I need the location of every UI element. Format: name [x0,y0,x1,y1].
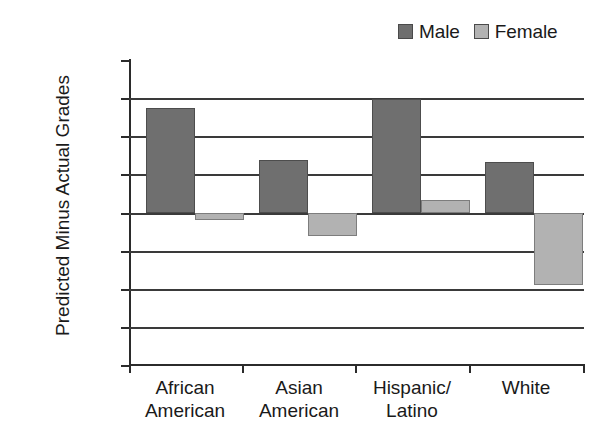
legend-swatch-female [474,24,489,39]
bar-female-asian-american [308,213,357,236]
bar-male-asian-american [259,160,308,213]
gridline-0.15 [129,98,584,100]
plot-area [129,60,584,365]
x-tick-4 [583,364,585,373]
gridline--0.10 [129,289,584,291]
x-category-line1-white: White [502,377,551,398]
legend-label-female: Female [495,22,558,41]
gridline--0.05 [129,251,584,253]
bar-chart-figure: Male Female Predicted Minus Actual Grade… [0,0,599,445]
x-tick-0 [129,364,131,373]
y-tick-mark-0 [121,60,130,62]
x-tick-3 [469,364,471,373]
x-tick-1 [242,364,244,373]
chart-legend: Male Female [398,20,558,42]
bar-male-white [485,162,534,213]
legend-swatch-male [398,24,413,39]
x-tick-2 [355,364,357,373]
bar-female-african-american [195,213,244,220]
x-category-line1-asian-american: Asian [275,377,323,398]
bar-female-white [534,213,583,285]
gridline--0.15 [129,327,584,329]
legend-entry-female: Female [474,22,558,41]
x-category-line1-african-american: African [155,377,214,398]
legend-label-male: Male [419,22,460,41]
x-category-label-white: White [451,376,599,399]
bar-male-hispanic-latino [372,99,421,213]
x-category-line1-hispanic-latino: Hispanic/ [373,377,451,398]
bar-male-african-american [146,108,195,213]
gridline-0.10 [129,136,584,138]
legend-entry-male: Male [398,22,460,41]
x-category-line2-hispanic-latino: Latino [337,399,487,422]
bar-female-hispanic-latino [421,200,470,213]
y-axis-title: Predicted Minus Actual Grades [53,46,72,366]
